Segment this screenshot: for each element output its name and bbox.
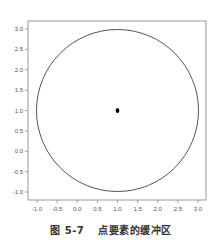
y-tick-label: 1.5 [15, 87, 24, 93]
y-tick-label: 1.0 [15, 108, 24, 114]
x-tick-label: 2.0 [154, 206, 163, 212]
y-tick-label: 0.5 [15, 128, 24, 134]
y-axis: 3.02.52.01.51.00.50.0-0.5-1.0 [13, 26, 28, 195]
y-tick-label: 3.0 [15, 26, 24, 32]
y-tick-label: -0.5 [13, 169, 24, 175]
x-axis: -1.0-0.50.00.51.01.52.02.53.0 [32, 200, 203, 212]
x-tick-label: 1.5 [133, 206, 142, 212]
y-tick-label: 0.0 [15, 148, 24, 154]
figure-title: 点要素的缓冲区 [98, 225, 172, 236]
y-tick-label: -1.0 [13, 189, 24, 195]
point-feature [116, 108, 120, 113]
x-tick-label: -0.5 [52, 206, 63, 212]
buffer-chart: 3.02.52.01.51.00.50.0-0.5-1.0 -1.0-0.50.… [0, 0, 222, 240]
x-tick-label: 3.0 [194, 206, 203, 212]
y-tick-label: 2.0 [15, 67, 24, 73]
x-tick-label: 2.5 [174, 206, 183, 212]
x-tick-label: 0.0 [73, 206, 82, 212]
figure-caption: 图 5-7 点要素的缓冲区 [0, 222, 222, 237]
x-tick-label: 0.5 [93, 206, 102, 212]
x-tick-label: 1.0 [113, 206, 122, 212]
y-tick-label: 2.5 [15, 46, 24, 52]
figure-number: 图 5-7 [50, 225, 84, 236]
x-tick-label: -1.0 [32, 206, 43, 212]
